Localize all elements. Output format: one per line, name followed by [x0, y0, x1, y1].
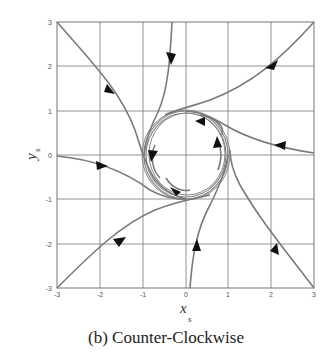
svg-text:-2: -2 [97, 291, 103, 298]
traj-top-right [165, 22, 314, 115]
figure-caption: (b) Counter-Clockwise [0, 328, 332, 348]
svg-text:y: y [23, 153, 39, 162]
svg-text:3: 3 [48, 19, 52, 26]
svg-text:s: s [32, 148, 42, 152]
arrow-icon [195, 117, 205, 126]
svg-text:x: x [179, 300, 187, 316]
traj-bottom-right [230, 150, 314, 288]
svg-text:-3: -3 [54, 291, 60, 298]
svg-text:-1: -1 [140, 291, 146, 298]
arrow-icon [213, 136, 222, 148]
traj-bottom [190, 155, 228, 288]
phase-portrait-chart: 3 2 1 0 -1 -2 -3 -3 -2 -1 0 1 2 3 x s y … [0, 0, 332, 362]
traj-right [186, 111, 314, 153]
svg-text:-2: -2 [46, 241, 52, 248]
arrow-icon [192, 239, 201, 251]
svg-text:3: 3 [312, 291, 316, 298]
y-tick-labels: 3 2 1 0 -1 -2 -3 [46, 19, 52, 292]
x-axis-label: x s [179, 300, 192, 324]
svg-text:0: 0 [184, 291, 188, 298]
svg-text:1: 1 [48, 108, 52, 115]
traj-top [144, 22, 172, 155]
svg-text:2: 2 [269, 291, 273, 298]
x-tick-labels: -3 -2 -1 0 1 2 3 [54, 291, 316, 298]
y-axis-label: y s [23, 148, 42, 162]
svg-text:s: s [188, 314, 192, 324]
svg-text:0: 0 [48, 152, 52, 159]
svg-text:1: 1 [226, 291, 230, 298]
svg-text:-1: -1 [46, 196, 52, 203]
svg-text:2: 2 [48, 63, 52, 70]
arrow-icon [96, 161, 108, 170]
svg-text:-3: -3 [46, 285, 52, 292]
arrow-icon [113, 237, 126, 247]
arrow-icon [166, 52, 176, 65]
arrow-icon [274, 141, 286, 150]
direction-arrows [96, 52, 286, 255]
traj-bottom-left [57, 195, 210, 288]
